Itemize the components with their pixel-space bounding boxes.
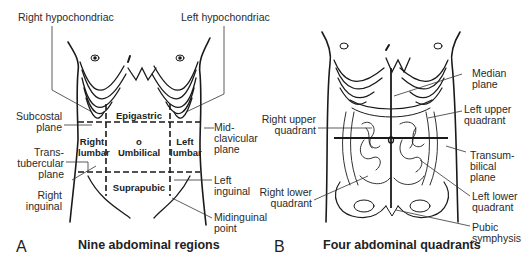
caption-a: Nine abdominal regions xyxy=(78,238,220,252)
label-right-inguinal: Right inguinal xyxy=(22,190,62,212)
label-left-hypochondriac: Left hypochondriac xyxy=(181,12,270,23)
label-line: quadrant xyxy=(472,202,518,213)
label-line: plane xyxy=(16,122,62,133)
panel-letter-a: A xyxy=(16,238,27,256)
umbilicus-icon: o xyxy=(110,136,168,147)
label-right-hypochondriac: Right hypochondriac xyxy=(18,12,114,23)
label-median-plane: Median plane xyxy=(472,68,506,90)
label-subcostal-plane: Subcostal plane xyxy=(16,111,62,133)
label-line: quadrant xyxy=(250,125,316,136)
label-line: Umbilical xyxy=(110,147,168,158)
label-left-lower-quadrant: Left lower quadrant xyxy=(472,191,518,213)
region-left-lumbar: Left lumbar xyxy=(170,136,200,158)
label-line: point xyxy=(214,223,267,234)
label-transumbilical-plane: Transum- bilical plane xyxy=(470,150,515,183)
label-line: inguinal xyxy=(22,201,62,212)
label-line: plane xyxy=(472,79,506,90)
region-epigastric: Epigastric xyxy=(112,110,166,121)
label-right-lower-quadrant: Right lower quadrant xyxy=(246,187,312,209)
quadrant-lines-b xyxy=(334,68,448,208)
label-line: plane xyxy=(14,169,64,180)
label-left-inguinal: Left inguinal xyxy=(214,175,250,197)
label-line: lumbar xyxy=(78,147,106,158)
label-line: plane xyxy=(214,144,258,155)
region-umbilical: o Umbilical xyxy=(110,136,168,158)
label-transtubercular-plane: Trans- tubercular plane xyxy=(14,147,64,180)
label-midinguinal-point: Midinguinal point xyxy=(214,212,267,234)
region-suprapubic: Suprapubic xyxy=(110,182,168,193)
panel-letter-b: B xyxy=(274,238,285,256)
label-line: plane xyxy=(470,172,515,183)
region-right-lumbar: Right lumbar xyxy=(78,136,106,158)
label-line: inguinal xyxy=(214,186,250,197)
label-left-upper-quadrant: Left upper quadrant xyxy=(464,104,511,126)
label-line: quadrant xyxy=(246,198,312,209)
label-right-upper-quadrant: Right upper quadrant xyxy=(250,114,316,136)
label-line: Right xyxy=(78,136,106,147)
torso-a xyxy=(68,38,210,225)
label-line: Left xyxy=(170,136,200,147)
label-line: lumbar xyxy=(170,147,200,158)
caption-b: Four abdominal quadrants xyxy=(323,238,481,252)
label-line: quadrant xyxy=(464,115,511,126)
